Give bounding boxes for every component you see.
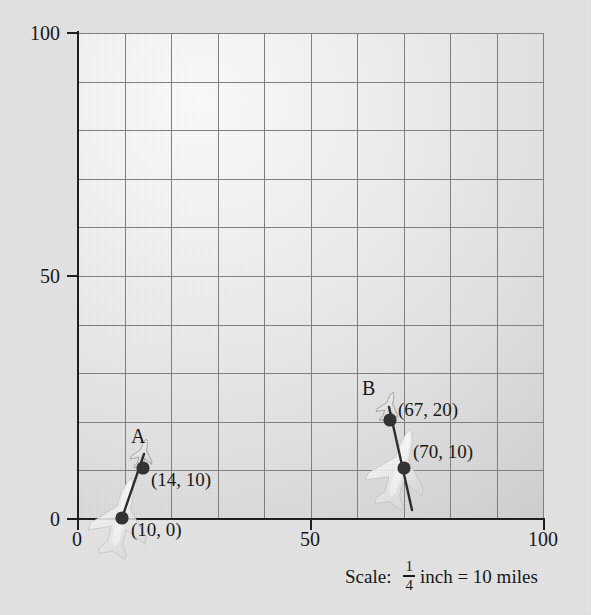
scale-caption: Scale: 1 4 inch = 10 miles — [345, 560, 538, 594]
grid-line-horizontal — [78, 130, 543, 131]
y-tick-50 — [67, 275, 79, 277]
grid-line-horizontal — [78, 33, 543, 34]
point-label-a-upper: (14, 10) — [151, 469, 211, 491]
scale-lead-text: Scale: — [345, 566, 391, 588]
y-axis-label-0: 0 — [0, 508, 60, 531]
station-label-a: A — [131, 425, 145, 448]
grid-line-horizontal — [78, 325, 543, 326]
y-axis-label-50: 50 — [0, 265, 60, 288]
scale-unit-text: inch = 10 miles — [420, 566, 538, 588]
scale-fraction: 1 4 — [403, 559, 415, 593]
x-axis-label-0: 0 — [57, 528, 97, 551]
grid-line-horizontal — [78, 276, 543, 277]
grid-line-horizontal — [78, 373, 543, 374]
grid-line-vertical — [543, 33, 544, 519]
x-axis-label-100: 100 — [518, 528, 568, 551]
grid-line-horizontal — [78, 422, 543, 423]
y-axis-label-100: 100 — [0, 22, 60, 45]
grid-line-horizontal — [78, 179, 543, 180]
plot-area — [78, 33, 543, 519]
point-label-b-upper: (67, 20) — [398, 399, 458, 421]
grid-lines — [78, 33, 543, 519]
point-label-a-lower: (10, 0) — [131, 519, 182, 541]
x-axis-label-50: 50 — [290, 528, 330, 551]
y-tick-100 — [67, 32, 79, 34]
station-label-b: B — [362, 377, 375, 400]
grid-line-horizontal — [78, 82, 543, 83]
grid-line-horizontal — [78, 227, 543, 228]
scale-fraction-numerator: 1 — [403, 559, 415, 574]
scale-fraction-denominator: 4 — [403, 578, 415, 593]
point-label-b-lower: (70, 10) — [413, 441, 473, 463]
grid-line-horizontal — [78, 470, 543, 471]
coordinate-plane-figure: 100 50 0 0 50 100 — [0, 0, 591, 615]
